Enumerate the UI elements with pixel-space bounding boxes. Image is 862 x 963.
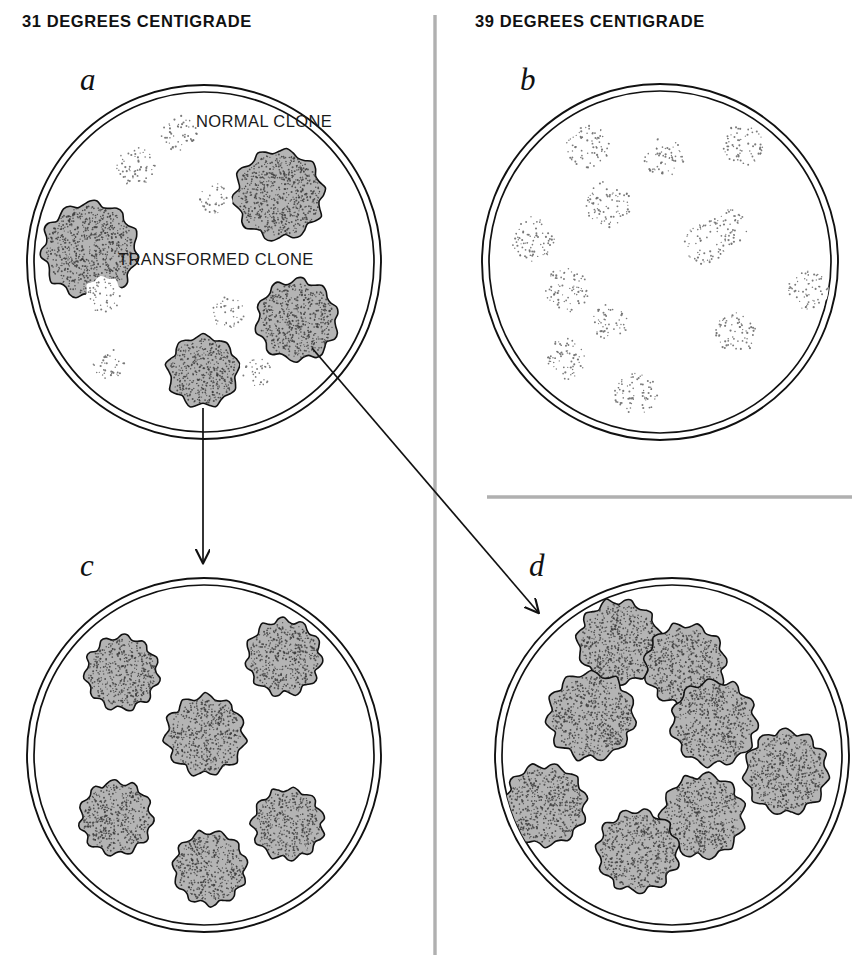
panel-letter-a: a	[80, 62, 96, 98]
petri-dish-panel-d	[495, 578, 849, 932]
petri-dish-panel-c	[27, 578, 381, 932]
label-transformed-clone: TRANSFORMED CLONE	[118, 250, 314, 269]
petri-dish-layer	[27, 84, 849, 932]
figure-canvas	[0, 0, 862, 963]
label-normal-clone: NORMAL CLONE	[196, 112, 332, 131]
panel-letter-b: b	[520, 62, 536, 98]
arrow-a-to-d	[312, 348, 538, 612]
transformation-assay-figure: 31 DEGREES CENTIGRADE 39 DEGREES CENTIGR…	[0, 0, 862, 963]
panel-letter-c: c	[80, 548, 94, 584]
panel-letter-d: d	[529, 548, 545, 584]
petri-dish-panel-b	[482, 84, 838, 440]
